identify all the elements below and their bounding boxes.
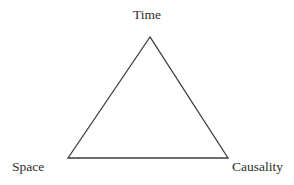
triangle-apex-label: Time <box>133 8 161 22</box>
triangle-bottom-left-label: Space <box>12 160 44 174</box>
triangle-shape <box>0 0 294 185</box>
diagram-canvas: Time Space Causality <box>0 0 294 185</box>
triangle-outline <box>68 37 228 158</box>
triangle-bottom-right-label: Causality <box>232 160 283 174</box>
